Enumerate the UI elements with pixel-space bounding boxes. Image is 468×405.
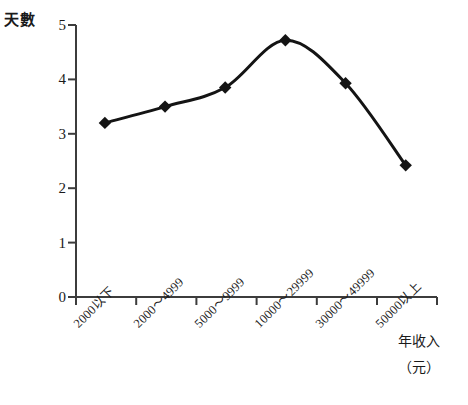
x-axis-title-unit: （元） [398,356,440,376]
y-tick-marks [68,25,76,297]
data-markers [99,34,412,172]
data-point-marker [159,100,171,112]
line-chart: 天數 0 1 2 3 4 5 [0,0,468,405]
x-axis-title-main: 年收入 [398,333,440,349]
data-point-marker [99,117,111,129]
x-axis-title: 年收入 （元） [398,330,440,376]
data-line-series [105,40,406,165]
data-point-marker [279,34,291,46]
